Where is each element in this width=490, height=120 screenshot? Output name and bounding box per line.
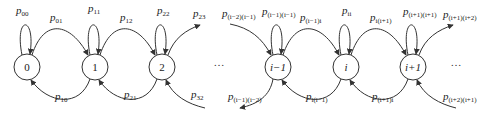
ellipsis-middle: … [214,56,225,68]
ellipsis-right: … [451,56,462,68]
label-p32: p32 [190,88,204,102]
label-p11: p11 [87,2,101,16]
state-label: i+1 [405,61,421,73]
state-node-0: 0 [14,54,40,80]
state-label: i [344,61,347,73]
state-node-1: 1 [82,54,108,80]
label-p22: p22 [156,4,170,18]
label-p01: p01 [49,11,63,25]
state-node-2: 2 [149,54,175,80]
label-p-i1p-i1p: p(i+1)(i+1) [402,5,437,19]
label-p-i1-i: p(i−1)i [299,11,322,25]
label-p-i2p-i1p: p(i+2)(i+1) [442,90,477,104]
label-p-i1-i1: p(i−1)(i−1) [261,5,296,19]
edge-i-i+1 [351,29,406,55]
state-label: 1 [92,61,98,73]
edge-in-i-1 [230,24,271,55]
edge-0-1 [32,29,88,55]
state-node-i+1: i+1 [400,54,426,80]
state-node-i-1: i−1 [265,54,291,80]
self-loop-1 [88,25,99,55]
label-p-i1-i2: p(i−1)(i−2) [227,90,262,104]
label-p-i-i1m: pi(i−1) [305,90,328,104]
label-p00: p00 [15,4,29,18]
label-p12: p12 [119,11,133,25]
label-p-i2-i1: p(i−2)(i−1) [221,7,256,21]
label-p-i1p-i: p(i+1)i [371,90,394,104]
label-p23: p23 [192,7,206,21]
state-node-i: i [333,54,359,80]
edge-i-1-i [283,29,339,55]
self-loop-0 [20,25,31,55]
edge-2-out [168,25,200,55]
state-label: 0 [24,61,30,73]
label-p-i-i1: pi(i+1) [369,11,392,25]
state-label: 2 [159,61,165,73]
label-p-i1p-i2p: p(i+1)(i+2) [442,8,477,22]
self-loop-2 [155,25,166,55]
label-p10: p10 [54,90,68,104]
state-label: i−1 [270,61,286,73]
label-p21: p21 [123,88,137,102]
self-loop-i+1 [406,25,417,55]
self-loop-i-1 [271,25,282,55]
edge-1-2 [100,29,155,55]
self-loop-i [339,25,350,55]
edge-i+1-out [419,25,453,55]
label-p-ii: pii [341,4,351,18]
markov-chain-diagram: 0 1 2 i−1 i i+1 … … p00 p01 p11 p12 p22 … [0,0,490,120]
